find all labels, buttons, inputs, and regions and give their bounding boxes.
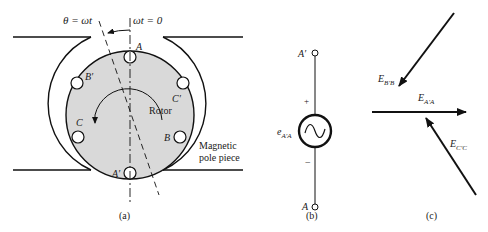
- slot-C-prime: [177, 77, 189, 89]
- slot-B-prime: [71, 77, 83, 89]
- panel-a-machine-diagram: θ = ωt ωt = 0 A A′ B B′ C C′ Rotor Magne…: [13, 14, 243, 222]
- reference-label: ωt = 0: [133, 14, 163, 26]
- plus-sign: +: [304, 96, 309, 106]
- slot-B-prime-label: B′: [85, 71, 94, 82]
- caption-b: (b): [306, 210, 318, 222]
- slot-B-label: B: [164, 132, 170, 143]
- panel-c-phasor-diagram: EA′A EB′B EC′C (c): [372, 13, 476, 222]
- rotor-label: Rotor: [149, 105, 172, 116]
- pole-label-line1: Magnetic: [199, 140, 237, 151]
- phasor-E-BB-label: EB′B: [377, 73, 395, 87]
- phasor-E-BB-arrow: [399, 13, 454, 86]
- slot-A-prime-label: A′: [111, 168, 121, 179]
- slot-C: [72, 131, 84, 143]
- minus-sign: −: [305, 157, 311, 168]
- terminal-top: [312, 50, 318, 56]
- top-terminal-label: A′: [297, 48, 307, 59]
- panel-b-equivalent-source: A′ A + − eA′A (b): [277, 48, 331, 222]
- slot-B: [174, 131, 186, 143]
- slot-C-label: C: [76, 117, 83, 128]
- phasor-E-CC-label: EC′C: [449, 138, 467, 152]
- generator-figure: θ = ωt ωt = 0 A A′ B B′ C C′ Rotor Magne…: [0, 0, 488, 232]
- slot-C-prime-label: C′: [172, 93, 182, 104]
- phasor-E-CC-arrow: [426, 118, 476, 195]
- angle-label: θ = ωt: [63, 14, 93, 26]
- slot-A-label: A: [135, 41, 143, 52]
- caption-a: (a): [119, 210, 130, 222]
- pole-label-line2: pole piece: [199, 152, 240, 163]
- source-voltage-label: eA′A: [277, 126, 292, 140]
- phasor-E-AA-label: EA′A: [417, 92, 435, 106]
- caption-c: (c): [426, 210, 437, 222]
- angle-theta-arc-arrow: [108, 30, 130, 33]
